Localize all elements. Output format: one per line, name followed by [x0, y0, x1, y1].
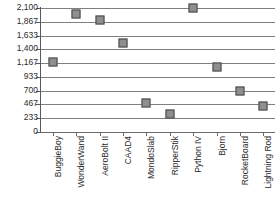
y-axis-tick-label: 0	[0, 127, 38, 136]
x-axis-tick-label: RocketBoard	[234, 132, 246, 208]
x-axis-tick-label: MondoSlab	[140, 132, 152, 208]
x-axis-tick-label: Python IV	[187, 132, 199, 208]
x-axis-category-text: Bjorn	[217, 136, 227, 156]
x-axis-category-text: BuggieBoy	[53, 136, 63, 177]
x-axis-tick-label: BuggieBoy	[47, 132, 59, 208]
x-axis-tick-label: WonderWand	[70, 132, 82, 208]
x-axis-tick-label: Bjorn	[211, 132, 223, 208]
data-point-marker	[48, 58, 57, 67]
data-point-marker	[259, 102, 268, 111]
x-axis-category-text: WonderWand	[76, 136, 86, 188]
data-point-marker	[72, 10, 81, 19]
data-point-marker	[118, 39, 127, 48]
x-axis-category-text: MondoSlab	[146, 136, 156, 179]
x-axis-category-text: CAAD4	[123, 136, 133, 164]
x-axis-category-text: RocketBoard	[240, 136, 250, 185]
y-axis-tick-label: 233	[0, 113, 38, 122]
x-axis-tick-label: Lightning Rod	[257, 132, 269, 208]
gridline	[41, 104, 275, 105]
scatter-chart: 2,1001,8671,6331,4001,1679337004672330 B…	[0, 0, 279, 212]
gridline	[41, 63, 275, 64]
x-axis-tick-label: RipperStik	[164, 132, 176, 208]
y-axis-tick-label: 1,400	[0, 44, 38, 53]
gridline	[41, 36, 275, 37]
y-axis-tick-label: 467	[0, 99, 38, 108]
gridline	[41, 118, 275, 119]
data-point-marker	[235, 86, 244, 95]
x-axis-category-text: AeroBolt II	[100, 136, 110, 176]
data-point-marker	[212, 63, 221, 72]
x-axis-tick-label: CAAD4	[117, 132, 129, 208]
y-axis-tick-label: 1,867	[0, 17, 38, 26]
x-axis: BuggieBoyWonderWandAeroBolt IICAAD4Mondo…	[41, 132, 275, 212]
data-point-marker	[165, 110, 174, 119]
data-point-marker	[95, 15, 104, 24]
y-axis-tick-label: 1,167	[0, 58, 38, 67]
x-axis-category-text: Lightning Rod	[263, 136, 273, 188]
x-axis-tick-label: AeroBolt II	[94, 132, 106, 208]
gridline	[41, 77, 275, 78]
gridline	[41, 8, 275, 9]
y-axis-tick-label: 700	[0, 86, 38, 95]
gridline	[41, 49, 275, 50]
data-point-marker	[189, 4, 198, 13]
y-axis-tick-label: 933	[0, 72, 38, 81]
x-axis-category-text: RipperStik	[170, 136, 180, 175]
plot-area	[41, 8, 275, 132]
data-point-marker	[142, 99, 151, 108]
gridline	[41, 22, 275, 23]
y-axis-tick-label: 1,633	[0, 31, 38, 40]
x-axis-category-text: Python IV	[193, 136, 203, 173]
y-axis-tick-label: 2,100	[0, 3, 38, 12]
